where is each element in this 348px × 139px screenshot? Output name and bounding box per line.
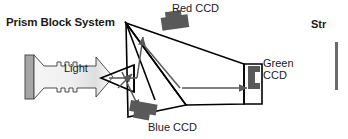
ray-paths [109,37,247,108]
page-title: Prism Block System [6,16,115,29]
green-ccd-label-line1: Green [263,57,294,69]
diagram-canvas: Prism Block System Light Red CCD Blue CC… [0,0,348,139]
right-panel-border [335,42,338,90]
green-ccd-sensor [248,66,260,89]
light-source-cap [25,55,34,99]
green-ccd-label-line2: CCD [263,69,294,81]
blue-ccd-sensor [128,100,158,121]
blue-ccd-label: Blue CCD [148,121,197,133]
blue-ccd-sensor-body [128,100,158,121]
ray-red-secondary [118,74,132,88]
light-label: Light [64,62,88,74]
green-ccd-sensor-body [248,66,260,89]
right-panel-edge [335,42,348,90]
right-panel-inner [338,42,348,90]
prism-upper-face [126,23,244,105]
prism-block [101,23,262,117]
green-ccd-label: Green CCD [263,57,294,81]
right-panel-partial-label: Str [311,18,326,30]
red-ccd-label: Red CCD [172,2,219,14]
